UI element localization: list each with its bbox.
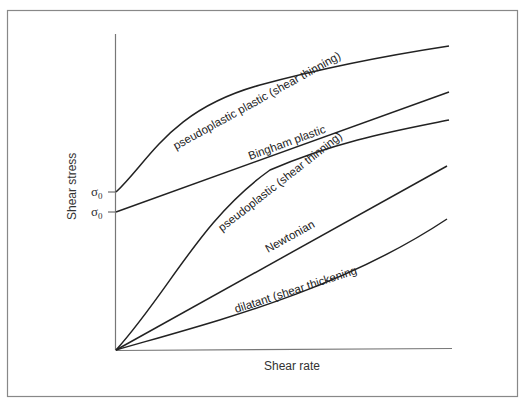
- figure-frame: [8, 11, 518, 397]
- sigma0-lower-label: σ0: [91, 204, 103, 221]
- rheology-diagram: σ0 σ0 pseudoplastic plastic (shear thinn…: [0, 0, 522, 398]
- x-axis: [116, 349, 453, 351]
- curve-pseudoplastic-plastic: [116, 46, 449, 192]
- label-newtonian: Newtonian: [263, 218, 316, 255]
- x-axis-label: Shear rate: [264, 359, 320, 373]
- y-axis-label: Shear stress: [65, 153, 79, 220]
- curve-bingham-plastic: [116, 92, 449, 212]
- sigma0-upper-label: σ0: [91, 184, 103, 201]
- label-dilatant: dilatant (shear thickening: [233, 264, 358, 315]
